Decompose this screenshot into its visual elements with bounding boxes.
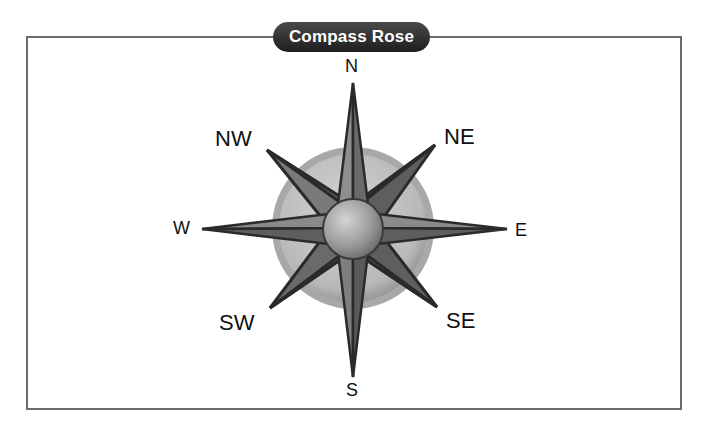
label-northeast: NE	[444, 126, 475, 148]
label-east: E	[515, 221, 527, 239]
label-northwest: NW	[215, 128, 252, 150]
label-southwest: SW	[219, 312, 254, 334]
label-south: S	[346, 381, 358, 399]
label-north: N	[345, 57, 358, 75]
label-west: W	[173, 219, 190, 237]
center-sphere	[323, 199, 383, 259]
label-southeast: SE	[446, 310, 475, 332]
